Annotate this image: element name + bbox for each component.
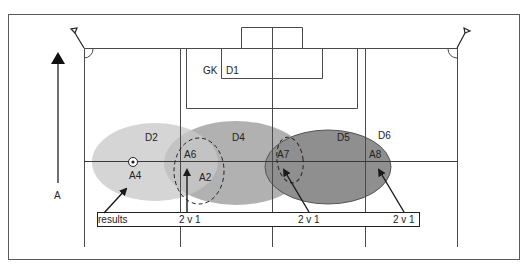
zone-d5: [265, 130, 391, 204]
soccer-ball-icon: [129, 158, 138, 167]
zone-label-d2: D2: [145, 132, 158, 143]
zone-label-d6: D6: [378, 130, 391, 141]
result-outcome-3: 2 v 1: [393, 214, 415, 225]
attacker-label-a2: A2: [199, 172, 212, 183]
result-outcome-2: 2 v 1: [298, 214, 320, 225]
results-bar: [98, 213, 420, 227]
attacker-label-a8: A8: [369, 149, 382, 160]
d1-label: D1: [226, 65, 239, 76]
attacker-label-a6: A6: [184, 149, 197, 160]
attacker-label-a7: A7: [277, 149, 290, 160]
zone-label-d4: D4: [232, 132, 245, 143]
results-label: results: [98, 214, 127, 225]
soccer-tactics-diagram: A GK D1 D2 D4 D5 D6 A4 A6 A2 A7 A8 resul…: [0, 0, 531, 265]
attacker-label-a4: A4: [129, 170, 142, 181]
zone-label-d5: D5: [337, 132, 350, 143]
gk-label: GK: [203, 65, 218, 76]
result-outcome-1: 2 v 1: [179, 214, 201, 225]
direction-label: A: [54, 190, 61, 201]
